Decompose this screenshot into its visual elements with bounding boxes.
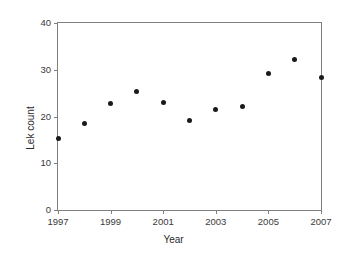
x-tick-label: 2003	[205, 217, 226, 227]
x-tick-label: 2007	[310, 217, 331, 227]
y-tick-label: 30	[40, 65, 51, 75]
data-point	[187, 118, 192, 123]
y-tick-label: 40	[40, 18, 51, 28]
data-point	[82, 121, 87, 126]
data-point	[266, 71, 271, 76]
scatter-chart: Lek count 010203040 19971999200120032005…	[0, 0, 347, 255]
y-tick-label: 0	[46, 205, 51, 215]
data-point	[108, 101, 113, 106]
x-tick-mark	[321, 210, 322, 214]
plot-area: 010203040 199719992001200320052007	[57, 22, 322, 211]
x-tick-mark	[111, 210, 112, 214]
data-point	[319, 75, 324, 80]
data-point	[161, 100, 166, 105]
y-tick-mark	[54, 117, 58, 118]
data-point	[134, 89, 139, 94]
data-point	[292, 57, 297, 62]
x-tick-label: 1999	[100, 217, 121, 227]
y-tick-label: 10	[40, 159, 51, 169]
data-point	[240, 104, 245, 109]
x-tick-mark	[216, 210, 217, 214]
x-tick-mark	[268, 210, 269, 214]
y-axis-title: Lek count	[25, 106, 36, 149]
x-tick-label: 1997	[47, 217, 68, 227]
x-tick-mark	[58, 210, 59, 214]
y-tick-mark	[54, 163, 58, 164]
data-point	[56, 136, 61, 141]
y-tick-label: 20	[40, 112, 51, 122]
x-tick-label: 2005	[258, 217, 279, 227]
y-tick-mark	[54, 70, 58, 71]
data-point	[213, 107, 218, 112]
y-tick-mark	[54, 23, 58, 24]
x-axis-title: Year	[0, 234, 347, 245]
x-tick-mark	[163, 210, 164, 214]
x-tick-label: 2001	[153, 217, 174, 227]
